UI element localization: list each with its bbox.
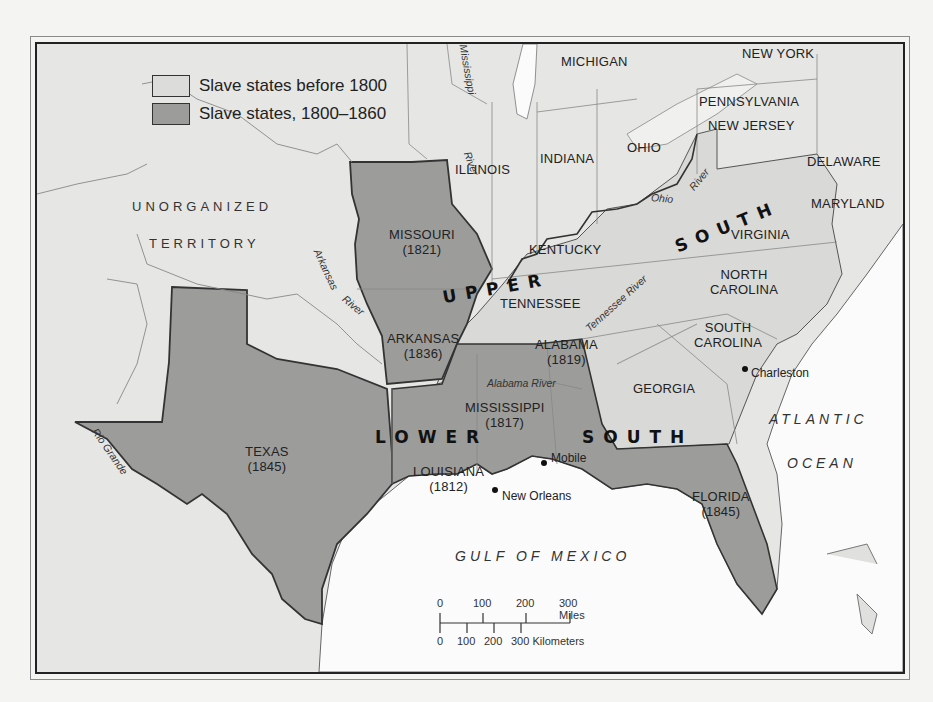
label-ohio: OHIO <box>627 140 661 155</box>
scale-km-200: 200 <box>484 635 502 647</box>
scale-miles-0: 0 <box>437 597 443 609</box>
label-lower-south: SOUTH <box>582 430 693 445</box>
lake-michigan <box>513 44 537 119</box>
label-louisiana: LOUISIANA(1812) <box>413 464 484 494</box>
label-north-carolina: NORTHCAROLINA <box>710 267 778 297</box>
legend-label: Slave states before 1800 <box>199 76 387 96</box>
scale-miles-100: 100 <box>473 597 491 609</box>
label-new-orleans: New Orleans <box>502 489 571 504</box>
legend-swatch-dark <box>152 103 190 125</box>
label-territory: TERRITORY <box>149 236 260 251</box>
label-arkansas: ARKANSAS(1836) <box>387 331 459 361</box>
scale-km-300: 300 Kilometers <box>511 635 584 647</box>
label-indiana: INDIANA <box>540 151 594 166</box>
label-unorganized: UNORGANIZED <box>132 199 272 214</box>
label-kentucky: KENTUCKY <box>529 242 601 257</box>
label-pennsylvania: PENNSYLVANIA <box>699 94 799 109</box>
label-mobile: Mobile <box>551 451 586 466</box>
label-ocean: OCEAN <box>787 456 857 471</box>
legend-item-1800-1860: Slave states, 1800–1860 <box>152 100 387 128</box>
label-gulf-of-mexico: GULF OF MEXICO <box>455 549 630 564</box>
legend-label: Slave states, 1800–1860 <box>199 104 386 124</box>
label-ohio-river: Ohio <box>650 190 673 207</box>
label-tennessee: TENNESSEE <box>500 296 581 311</box>
map-geography <box>37 44 903 672</box>
label-delaware: DELAWARE <box>807 154 881 169</box>
label-alabama: ALABAMA(1819) <box>535 337 598 367</box>
label-maryland: MARYLAND <box>811 196 885 211</box>
label-michigan: MICHIGAN <box>561 54 628 69</box>
scale-miles-200: 200 <box>516 597 534 609</box>
city-dot-mobile <box>541 460 547 466</box>
label-new-york: NEW YORK <box>742 46 814 61</box>
city-dot-new-orleans <box>492 487 498 493</box>
scale-bar: 0 100 200 300 Miles 0 100 200 300 Kilome… <box>437 597 597 657</box>
label-south-carolina: SOUTHCAROLINA <box>694 320 762 350</box>
scale-km-0: 0 <box>437 635 443 647</box>
label-atlantic: ATLANTIC <box>769 412 868 427</box>
label-charleston: Charleston <box>751 366 809 381</box>
label-florida: FLORIDA(1845) <box>692 489 750 519</box>
label-georgia: GEORGIA <box>633 381 695 396</box>
scale-km-100: 100 <box>457 635 475 647</box>
map-legend: Slave states before 1800 Slave states, 1… <box>152 72 387 128</box>
label-alabama-river: Alabama River <box>487 376 556 391</box>
legend-swatch-light <box>152 75 190 97</box>
map: Slave states before 1800 Slave states, 1… <box>35 42 905 674</box>
label-mississippi: MISSISSIPPI(1817) <box>465 400 545 430</box>
label-lower: LOWER <box>375 430 488 445</box>
city-dot-charleston <box>742 366 748 372</box>
label-missouri: MISSOURI(1821) <box>389 227 455 257</box>
label-new-jersey: NEW JERSEY <box>708 118 795 133</box>
label-texas: TEXAS(1845) <box>245 444 289 474</box>
legend-item-before-1800: Slave states before 1800 <box>152 72 387 100</box>
scale-miles-300: 300 Miles <box>559 597 597 621</box>
